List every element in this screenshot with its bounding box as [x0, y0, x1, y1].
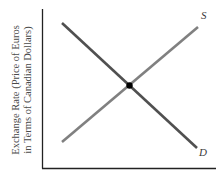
supply-label: S — [201, 9, 207, 21]
y-axis-label: Exchange Rate (Price of Euros in Terms o… — [10, 15, 34, 165]
y-axis-label-line-1: Exchange Rate (Price of Euros — [10, 15, 22, 165]
y-axis-label-line-2: in Terms of Canadian Dollars) — [22, 15, 34, 165]
demand-label: D — [199, 146, 207, 158]
supply-demand-diagram: Exchange Rate (Price of Euros in Terms o… — [0, 0, 222, 179]
equilibrium-point — [126, 82, 132, 88]
